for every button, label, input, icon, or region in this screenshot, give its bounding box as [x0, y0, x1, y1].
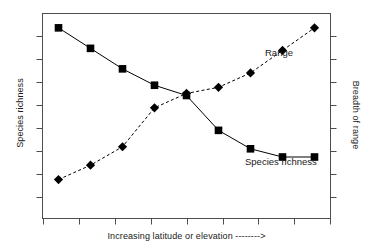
data-point-square [55, 24, 63, 32]
plot-canvas [0, 0, 377, 250]
x-axis-ticks [44, 219, 331, 225]
chart-figure: Species richness Breadth of range Increa… [0, 0, 377, 250]
y-axis-left-ticks [37, 37, 43, 198]
data-point-diamond [246, 68, 255, 77]
series-annotation-range: Range [265, 47, 293, 58]
y-axis-right-ticks [331, 37, 337, 198]
data-point-square [151, 81, 159, 89]
data-point-diamond [310, 23, 319, 32]
y-axis-left-title: Species richness [15, 53, 25, 173]
data-point-diamond [54, 175, 63, 184]
data-point-square [119, 65, 127, 73]
data-point-diamond [214, 83, 223, 92]
x-axis-title: Increasing latitude or elevation -------… [42, 231, 331, 241]
data-point-diamond [86, 161, 95, 170]
data-point-square [247, 145, 255, 153]
series-annotation-species-richness: Species richness [245, 156, 317, 167]
data-point-diamond [150, 103, 159, 112]
data-point-square [87, 45, 95, 53]
plot-frame [43, 14, 331, 219]
y-axis-right-title: Breadth of range [351, 55, 361, 175]
data-point-square [215, 127, 223, 135]
